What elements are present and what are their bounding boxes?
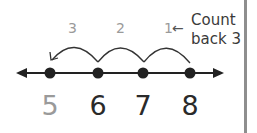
arc-arrowhead-icon [50, 52, 58, 60]
number-7: 7 [128, 90, 158, 121]
jump-label-2: 2 [116, 20, 125, 36]
right-arrowhead-icon [213, 68, 224, 78]
number-5: 5 [35, 90, 65, 121]
page-divider [244, 0, 247, 133]
caption-line-2: back 3 [191, 30, 241, 49]
jump-label-3: 3 [68, 20, 77, 36]
caption-line-1: Count [191, 11, 241, 30]
left-arrowhead-icon [16, 68, 27, 78]
left-arrow-icon: ← [172, 20, 184, 36]
number-6: 6 [83, 90, 113, 121]
number-8: 8 [175, 90, 205, 121]
jump-arcs [50, 47, 190, 63]
caption-count-back: Count back 3 [191, 11, 241, 49]
